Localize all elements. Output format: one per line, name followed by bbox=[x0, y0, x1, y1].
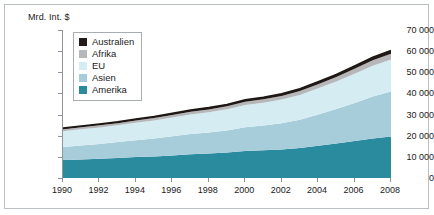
x-axis-tick-mark bbox=[390, 178, 391, 182]
legend-item-label: Australien bbox=[92, 36, 134, 48]
x-axis-tick-mark bbox=[135, 178, 136, 182]
x-axis-tick-mark bbox=[354, 178, 355, 182]
x-axis-tick-label: 1990 bbox=[52, 185, 72, 195]
legend-swatch-icon bbox=[79, 38, 87, 46]
x-axis-tick-mark bbox=[62, 178, 63, 182]
y-axis-title: Mrd. Int. $ bbox=[28, 12, 70, 22]
legend-item-label: Asien bbox=[92, 72, 116, 84]
x-axis-tick-label: 2002 bbox=[271, 185, 291, 195]
x-axis-tick-label: 2008 bbox=[380, 185, 400, 195]
legend-item: Asien bbox=[79, 72, 134, 84]
x-axis-tick-mark bbox=[281, 178, 282, 182]
legend-item: EU bbox=[79, 60, 134, 72]
x-axis-tick-label: 2006 bbox=[344, 185, 364, 195]
chart-legend: AustralienAfrikaEUAsienAmerika bbox=[73, 32, 142, 101]
x-axis-tick-mark bbox=[244, 178, 245, 182]
x-axis-tick-label: 1994 bbox=[125, 185, 145, 195]
legend-swatch-icon bbox=[79, 74, 87, 82]
legend-item-label: EU bbox=[92, 60, 105, 72]
x-axis-tick-label: 1996 bbox=[161, 185, 181, 195]
legend-swatch-icon bbox=[79, 50, 87, 58]
legend-item: Afrika bbox=[79, 48, 134, 60]
legend-item: Amerika bbox=[79, 84, 134, 96]
x-axis-tick-mark bbox=[98, 178, 99, 182]
x-axis-tick-mark bbox=[171, 178, 172, 182]
legend-swatch-icon bbox=[79, 62, 87, 70]
x-axis-tick-label: 1992 bbox=[88, 185, 108, 195]
legend-item-label: Afrika bbox=[92, 48, 116, 60]
x-axis-tick-label: 2004 bbox=[307, 185, 327, 195]
legend-item-label: Amerika bbox=[92, 84, 127, 96]
legend-swatch-icon bbox=[79, 86, 87, 94]
x-axis-tick-label: 1998 bbox=[198, 185, 218, 195]
x-axis-tick-mark bbox=[208, 178, 209, 182]
x-axis-tick-mark bbox=[317, 178, 318, 182]
legend-item: Australien bbox=[79, 36, 134, 48]
x-axis-tick-label: 2000 bbox=[234, 185, 254, 195]
figure-container: Mrd. Int. $ 010 00020 00030 00040 00050 … bbox=[0, 0, 434, 215]
